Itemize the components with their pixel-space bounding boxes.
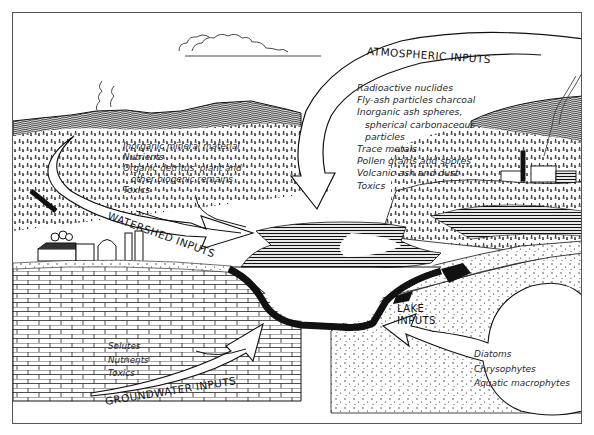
atmospheric-item: particles xyxy=(357,131,475,143)
lake-item: Aquatic macrophytes xyxy=(474,376,570,391)
atmospheric-item: Pollen grains and spores xyxy=(357,155,475,167)
atmospheric-inputs-list: Radioactive nuclides Fly-ash particles c… xyxy=(357,82,475,192)
atmospheric-item: Volcanic ash and dust xyxy=(357,167,475,179)
groundwater-item: Nutrients xyxy=(108,354,149,368)
lake-item: Chrysophytes xyxy=(474,362,570,377)
watershed-item: Nutrients xyxy=(123,152,242,163)
cloud-left xyxy=(185,34,321,56)
lake-item: Diatoms xyxy=(474,347,570,362)
groundwater-item: Toxics xyxy=(108,367,149,381)
atmospheric-item: spherical carbonaceous xyxy=(357,119,475,131)
groundwater-inputs-list: Solutes Nutrients Toxics xyxy=(108,340,149,381)
watershed-item: Toxics xyxy=(123,185,242,196)
lake-inputs-title: LAKE INPUTS xyxy=(397,303,436,327)
atmospheric-item: Fly-ash particles charcoal xyxy=(357,94,475,106)
diagram-frame: ATMOSPHERIC INPUTS Radioactive nuclides … xyxy=(12,12,582,424)
watershed-inputs-list: Inorganic mineral material Nutrients Org… xyxy=(123,141,242,196)
groundwater-item: Solutes xyxy=(108,340,149,354)
watershed-item: Inorganic mineral material xyxy=(123,141,242,152)
lake-inputs-title-line1: LAKE xyxy=(397,303,436,315)
watershed-item: Organic detritus, plant and xyxy=(123,163,242,174)
atmospheric-item: Toxics xyxy=(357,180,475,192)
lake-inputs-list: Diatoms Chrysophytes Aquatic macrophytes xyxy=(474,347,570,391)
watershed-item: other biogenic remains xyxy=(123,174,242,185)
atmospheric-item: Trace metals xyxy=(357,143,475,155)
lake-inputs-title-line2: INPUTS xyxy=(397,315,436,327)
atmospheric-item: Radioactive nuclides xyxy=(357,82,475,94)
farm xyxy=(38,231,143,263)
atmospheric-item: Inorganic ash spheres, xyxy=(357,106,475,118)
